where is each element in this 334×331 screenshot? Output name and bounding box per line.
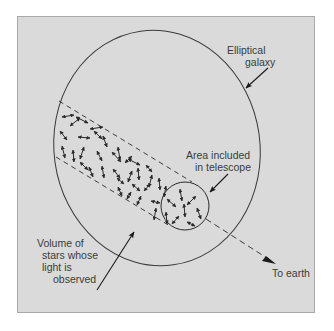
label-pointers	[97, 68, 268, 290]
label-light-is: light is	[42, 261, 72, 273]
to-earth-arrow-icon	[206, 219, 276, 264]
label-volume-of: Volume of	[37, 237, 84, 249]
volume-pointer-icon	[97, 232, 134, 290]
galaxy-pointer-icon	[246, 68, 268, 88]
label-galaxy: galaxy	[245, 56, 275, 68]
star-velocity-arrows	[60, 115, 201, 226]
telescope-aperture-circle	[161, 182, 209, 230]
galaxy-diagram	[0, 0, 334, 331]
label-stars-whose: stars whose	[42, 249, 98, 261]
label-area-included: Area included	[186, 149, 250, 161]
label-elliptical: Elliptical	[227, 44, 266, 56]
telescope-pointer-icon	[210, 174, 228, 192]
line-of-sight-band	[56, 101, 192, 226]
label-observed: observed	[53, 273, 96, 285]
label-in-telescope: in telescope	[195, 161, 251, 173]
label-to-earth: To earth	[272, 267, 310, 279]
